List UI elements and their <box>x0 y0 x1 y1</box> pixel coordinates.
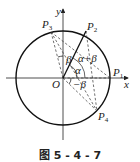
angle-beta-label: β <box>65 53 72 65</box>
figure-caption: 图 5 - 4 - 7 <box>0 146 140 162</box>
origin-label: O <box>52 78 60 90</box>
angle-alpha-label: α <box>75 64 81 76</box>
point-p1-label: P1 <box>112 66 124 80</box>
point-p3-label: P3 <box>41 18 53 32</box>
angle-arc-beta <box>58 56 63 57</box>
y-axis-label: y <box>55 5 61 17</box>
angle-arc-neg-beta <box>69 78 71 84</box>
point-p4-label: P4 <box>97 110 109 124</box>
angle-alpha-plus-beta-label: α+β <box>78 52 97 64</box>
angle-neg-beta-label: −β <box>73 78 86 90</box>
point-p2-label: P2 <box>86 20 98 34</box>
unit-circle-diagram: y x O P1 P2 P3 P4 β α+β α −β <box>0 0 140 162</box>
x-axis-label: x <box>123 78 129 90</box>
